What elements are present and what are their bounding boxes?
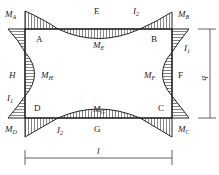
label-node-h: H [8, 70, 16, 80]
label-inertia-left: I1 [6, 93, 13, 104]
label-moment-h: MH [40, 70, 54, 81]
label-node-b: B [151, 34, 157, 44]
label-dimension-b: b [200, 76, 210, 81]
label-inertia-right: I1 [183, 43, 190, 54]
label-node-a: A [36, 34, 43, 44]
label-moment-d: MD [4, 124, 18, 135]
label-inertia-bottom: I2 [56, 125, 63, 136]
label-moment-a: MA [4, 9, 17, 20]
label-moment-g: MG [92, 104, 106, 115]
label-node-f: F [178, 70, 183, 80]
label-node-g: G [94, 124, 101, 134]
label-moment-c: MC [177, 124, 191, 135]
dimension-b [198, 29, 216, 118]
label-node-e: E [94, 6, 100, 16]
label-node-d: D [34, 103, 41, 113]
label-moment-e: ME [92, 40, 105, 51]
frame-moment-diagram: A B C D E F G H MA MB MC MD ME MF MG MH … [0, 0, 219, 175]
label-inertia-top: I2 [132, 6, 139, 17]
label-node-c: C [158, 103, 164, 113]
label-moment-b: MB [177, 9, 190, 20]
label-moment-f: MF [143, 70, 156, 81]
label-dimension-l: l [97, 146, 100, 156]
